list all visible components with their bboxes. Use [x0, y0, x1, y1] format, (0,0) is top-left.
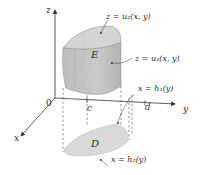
origin-label: 0 [46, 98, 52, 108]
type1-region-diagram: z x y 0 c d E D z = u₂(x, y) z = u₁(x, y… [0, 0, 200, 175]
lower-surface-label: z = u₁(x, y) [134, 54, 180, 63]
base-label-d: D [90, 138, 99, 149]
x-axis-label: x [14, 133, 19, 143]
solid-label-e: E [90, 49, 99, 60]
solid-e [63, 26, 121, 94]
upper-surface-label: z = u₂(x, y) [105, 12, 151, 21]
tick-label-c: c [87, 103, 92, 113]
boundary-h1-label: x = h₁(y) [138, 84, 173, 93]
z-axis-label: z [45, 5, 51, 15]
boundary-h2-label: x = h₂(y) [111, 155, 146, 164]
y-axis-label: y [182, 104, 189, 114]
tick-label-d: d [145, 102, 151, 112]
y-axis [55, 98, 175, 104]
